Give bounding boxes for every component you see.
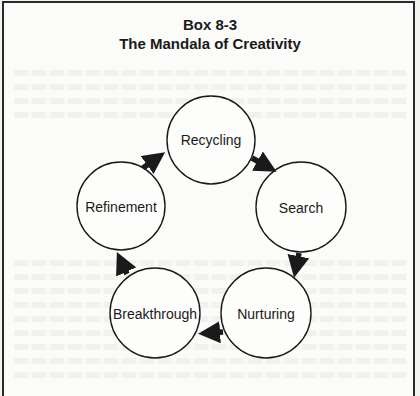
arrow-search-to-nurturing-icon <box>296 253 299 268</box>
arrow-breakthrough-to-refinement-icon <box>121 261 127 274</box>
node-label-breakthrough: Breakthrough <box>107 306 203 322</box>
arrow-recycling-to-search-icon <box>252 158 268 167</box>
arrow-nurturing-to-breakthrough-icon <box>208 332 223 333</box>
node-label-recycling: Recycling <box>163 132 259 148</box>
node-label-refinement: Refinement <box>73 199 169 215</box>
arrow-refinement-to-recycling-icon <box>143 158 157 168</box>
node-label-search: Search <box>253 200 349 216</box>
node-label-nurturing: Nurturing <box>218 306 314 322</box>
